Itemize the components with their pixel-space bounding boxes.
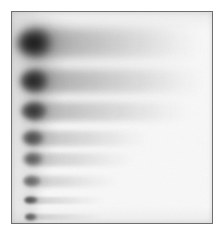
- gel-scan-image: [0, 0, 221, 234]
- gel-plate-frame: [11, 11, 213, 224]
- gel-plate-surface: [12, 12, 212, 223]
